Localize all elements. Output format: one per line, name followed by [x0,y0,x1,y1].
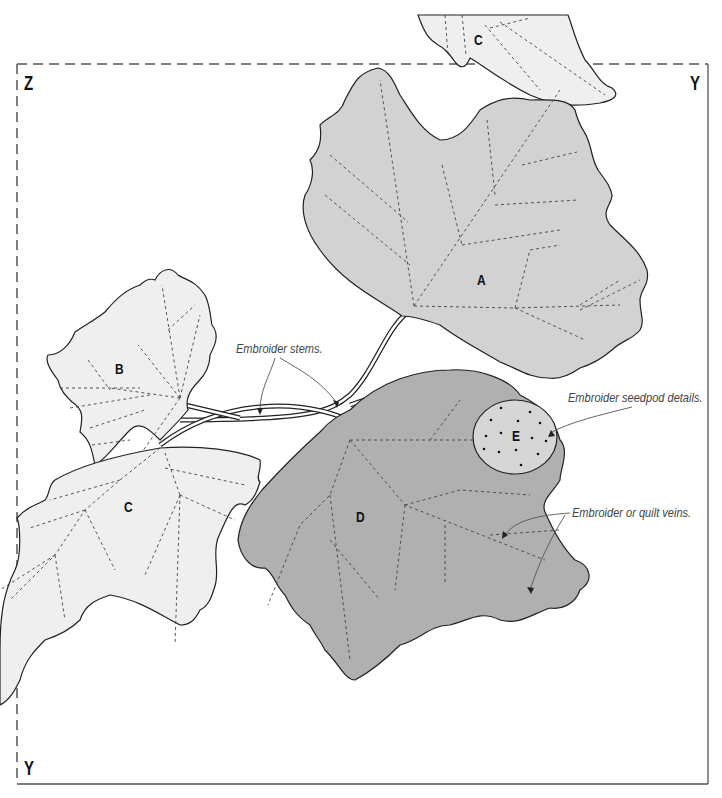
leaf-b-label: B [115,360,124,377]
leaf-a-label: A [477,271,486,288]
leaf-e-label: E [512,427,520,444]
leaf-c-top-label: C [474,31,483,48]
leaf-c-top [418,15,616,105]
leaf-a [303,68,647,378]
leaf-d-label: D [356,508,365,525]
leaf-b [47,270,216,465]
annotation-stems: Embroider stems. [236,341,323,356]
annotation-veins: Embroider or quilt veins. [572,505,691,520]
leaf-c [0,447,260,705]
corner-label-y-bottom: Y [24,757,34,780]
leaf-c-label: C [124,498,133,515]
corner-label-z: Z [24,72,33,95]
annotation-seedpod: Embroider seedpod details. [568,390,703,405]
corner-label-y-top: Y [690,72,700,95]
